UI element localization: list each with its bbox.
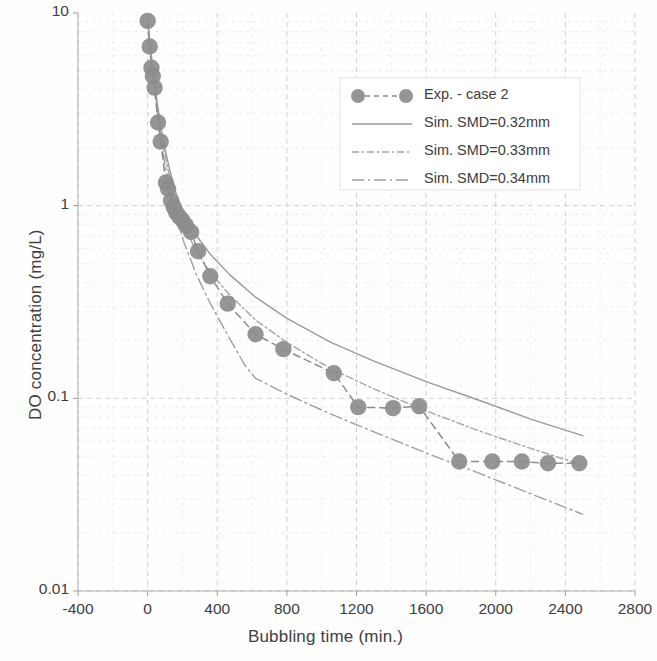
data-point <box>540 455 556 471</box>
x-tick-label: 800 <box>247 600 327 618</box>
legend-label-0: Exp. - case 2 <box>424 86 509 102</box>
data-point <box>350 399 366 415</box>
data-point <box>139 13 155 29</box>
x-tick-label: 1200 <box>317 600 397 618</box>
legend-label-3: Sim. SMD=0.34mm <box>424 170 550 186</box>
data-point <box>247 326 263 342</box>
data-point <box>152 133 168 149</box>
data-point <box>411 398 427 414</box>
x-tick-label: 2400 <box>525 600 605 618</box>
x-tick-label: -400 <box>38 600 118 618</box>
legend-marker-0 <box>351 89 365 103</box>
y-tick-label: 0.01 <box>39 580 69 598</box>
data-point <box>326 365 342 381</box>
y-tick-label: 1 <box>60 195 69 213</box>
data-point <box>385 400 401 416</box>
x-tick-label: 0 <box>108 600 188 618</box>
legend-label-2: Sim. SMD=0.33mm <box>424 142 550 158</box>
data-point <box>514 453 530 469</box>
data-point <box>183 224 199 240</box>
legend-marker-0 <box>399 89 413 103</box>
data-point <box>142 38 158 54</box>
x-tick-label: 2800 <box>595 600 657 618</box>
y-tick-label: 10 <box>52 2 69 20</box>
data-point <box>150 114 166 130</box>
x-axis-title: Bubbling time (min.) <box>0 627 651 647</box>
x-tick-label: 2000 <box>456 600 536 618</box>
data-point <box>219 295 235 311</box>
y-tick-label: 0.1 <box>47 387 69 405</box>
data-point <box>190 243 206 259</box>
data-point <box>571 455 587 471</box>
x-tick-label: 400 <box>177 600 257 618</box>
x-tick-label: 1600 <box>386 600 466 618</box>
data-point <box>484 453 500 469</box>
data-point <box>202 268 218 284</box>
data-point <box>275 341 291 357</box>
data-point <box>146 79 162 95</box>
legend-label-1: Sim. SMD=0.32mm <box>424 114 550 130</box>
y-axis-title: DO concentration (mg/L) <box>26 229 46 420</box>
data-point <box>451 453 467 469</box>
